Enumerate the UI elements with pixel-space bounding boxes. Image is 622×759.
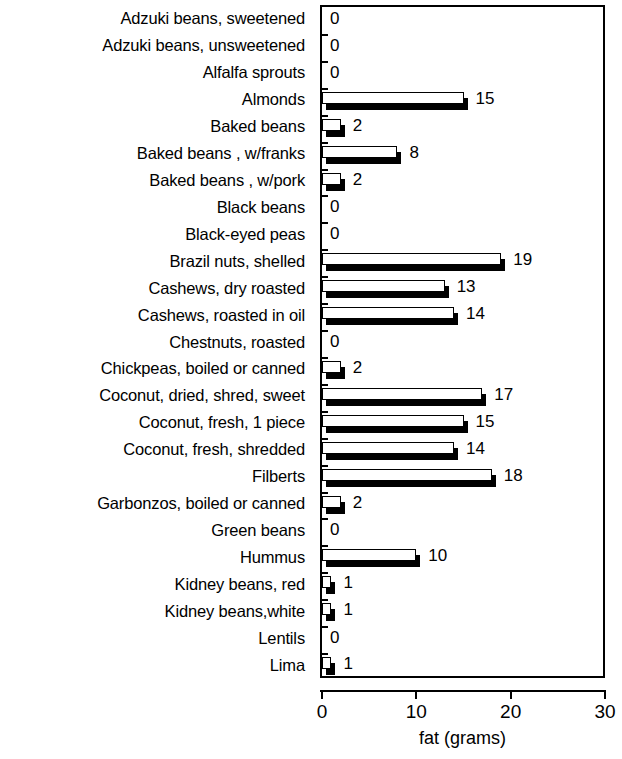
category-label: Chickpeas, boiled or canned xyxy=(0,360,305,377)
category-label: Lentils xyxy=(0,630,305,647)
fat-grams-bar-chart: Adzuki beans, sweetenedAdzuki beans, uns… xyxy=(0,0,622,759)
category-label: Cashews, dry roasted xyxy=(0,280,305,297)
bar-value-label: 0 xyxy=(330,521,339,538)
bar-row: 13 xyxy=(322,276,607,303)
bar-face[interactable] xyxy=(322,388,482,400)
bar-row: 19 xyxy=(322,249,607,276)
bar-face[interactable] xyxy=(322,442,454,454)
category-label: Adzuki beans, unsweetened xyxy=(0,37,305,54)
bar-row: 2 xyxy=(322,115,607,142)
x-axis-tick xyxy=(510,690,512,699)
bar-face[interactable] xyxy=(322,119,341,131)
bar-value-label: 8 xyxy=(409,144,418,161)
bar-row: 18 xyxy=(322,465,607,492)
bar-value-label: 2 xyxy=(353,494,362,511)
x-axis-tick-label: 0 xyxy=(317,702,328,721)
category-label: Adzuki beans, sweetened xyxy=(0,10,305,27)
category-labels-column: Adzuki beans, sweetenedAdzuki beans, uns… xyxy=(0,5,313,678)
bar-row: 0 xyxy=(322,330,607,357)
bar-face[interactable] xyxy=(322,173,341,185)
bar-value-label: 10 xyxy=(428,547,447,564)
x-axis-tick-label: 30 xyxy=(594,702,615,721)
plot-area: 0001528200191314021715141820101101 xyxy=(322,7,603,676)
bar-face[interactable] xyxy=(322,307,454,319)
bar-value-label: 1 xyxy=(343,574,352,591)
bar-face[interactable] xyxy=(322,253,501,265)
bar-face[interactable] xyxy=(322,657,331,669)
bar-value-label: 14 xyxy=(466,440,485,457)
x-axis-tick-label: 20 xyxy=(500,702,521,721)
bar-row: 1 xyxy=(322,572,607,599)
category-label: Kidney beans,white xyxy=(0,603,305,620)
bar-face[interactable] xyxy=(322,469,492,481)
bar-row: 0 xyxy=(322,34,607,61)
x-axis-tick xyxy=(604,690,606,699)
category-label: Coconut, dried, shred, sweet xyxy=(0,387,305,404)
bar-row: 2 xyxy=(322,357,607,384)
bar-row: 0 xyxy=(322,222,607,249)
bar-value-label: 0 xyxy=(330,225,339,242)
bar-value-label: 2 xyxy=(353,117,362,134)
category-label: Chestnuts, roasted xyxy=(0,334,305,351)
category-label: Lima xyxy=(0,657,305,674)
category-label: Green beans xyxy=(0,522,305,539)
bar-value-label: 14 xyxy=(466,305,485,322)
category-label: Filberts xyxy=(0,468,305,485)
bar-value-label: 18 xyxy=(504,467,523,484)
bar-value-label: 17 xyxy=(494,386,513,403)
category-label: Coconut, fresh, 1 piece xyxy=(0,414,305,431)
bar-row: 15 xyxy=(322,88,607,115)
bar-row: 1 xyxy=(322,599,607,626)
bar-value-label: 0 xyxy=(330,198,339,215)
bar-value-label: 19 xyxy=(513,251,532,268)
bar-row: 17 xyxy=(322,384,607,411)
bar-value-label: 15 xyxy=(476,90,495,107)
bar-row: 14 xyxy=(322,303,607,330)
category-label: Alfalfa sprouts xyxy=(0,64,305,81)
x-axis-line xyxy=(320,690,605,692)
bar-row: 14 xyxy=(322,438,607,465)
category-label: Black-eyed peas xyxy=(0,226,305,243)
bar-row: 0 xyxy=(322,61,607,88)
bar-value-label: 0 xyxy=(330,10,339,27)
bar-row: 0 xyxy=(322,626,607,653)
bar-row: 15 xyxy=(322,411,607,438)
category-label: Baked beans xyxy=(0,118,305,135)
category-label: Baked beans , w/franks xyxy=(0,145,305,162)
bar-value-label: 0 xyxy=(330,333,339,350)
category-label: Brazil nuts, shelled xyxy=(0,253,305,270)
bar-value-label: 1 xyxy=(343,601,352,618)
bar-row: 8 xyxy=(322,142,607,169)
bar-row: 2 xyxy=(322,169,607,196)
x-axis-tick xyxy=(321,690,323,699)
bar-value-label: 2 xyxy=(353,359,362,376)
category-label: Almonds xyxy=(0,91,305,108)
bar-face[interactable] xyxy=(322,576,331,588)
bar-face[interactable] xyxy=(322,361,341,373)
bar-face[interactable] xyxy=(322,496,341,508)
bar-face[interactable] xyxy=(322,603,331,615)
bar-value-label: 13 xyxy=(457,278,476,295)
bar-row: 0 xyxy=(322,7,607,34)
bar-value-label: 0 xyxy=(330,629,339,646)
category-label: Hummus xyxy=(0,549,305,566)
plot-frame: 0001528200191314021715141820101101 xyxy=(320,5,605,678)
x-axis-title: fat (grams) xyxy=(320,729,605,747)
x-axis-tick xyxy=(415,690,417,699)
category-label: Black beans xyxy=(0,199,305,216)
category-label: Baked beans , w/pork xyxy=(0,172,305,189)
bar-face[interactable] xyxy=(322,280,445,292)
category-label: Kidney beans, red xyxy=(0,576,305,593)
bar-face[interactable] xyxy=(322,92,464,104)
bar-value-label: 0 xyxy=(330,64,339,81)
bar-value-label: 1 xyxy=(343,655,352,672)
category-label: Coconut, fresh, shredded xyxy=(0,441,305,458)
bar-face[interactable] xyxy=(322,146,397,158)
category-label: Cashews, roasted in oil xyxy=(0,307,305,324)
bar-row: 0 xyxy=(322,518,607,545)
bar-row: 10 xyxy=(322,545,607,572)
bar-value-label: 2 xyxy=(353,171,362,188)
bar-face[interactable] xyxy=(322,549,416,561)
bar-row: 1 xyxy=(322,653,607,680)
bar-face[interactable] xyxy=(322,415,464,427)
